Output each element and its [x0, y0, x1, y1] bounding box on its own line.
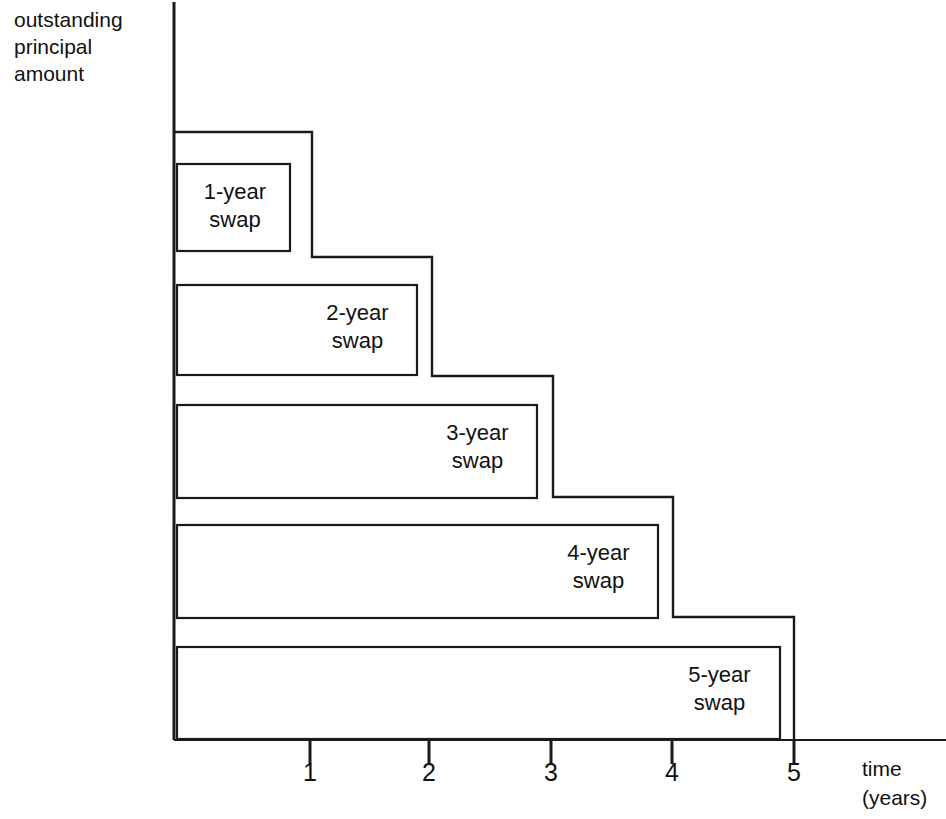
x-tick-label-4: 4: [652, 758, 692, 787]
swap-label-3-year: 3-year swap: [430, 419, 525, 475]
x-tick-label-5: 5: [774, 758, 814, 787]
staircase-diagram: outstanding principal amount time (years…: [0, 0, 946, 819]
x-tick-label-1: 1: [290, 758, 330, 787]
diagram-canvas: [0, 0, 946, 819]
swap-label-5-year: 5-year swap: [672, 661, 767, 717]
swap-label-1-year: 1-year swap: [190, 178, 280, 234]
y-axis-title: outstanding principal amount: [14, 6, 123, 87]
swap-label-2-year: 2-year swap: [310, 299, 405, 355]
x-tick-label-3: 3: [531, 758, 571, 787]
x-tick-label-2: 2: [409, 758, 449, 787]
x-axis-title: time (years): [862, 754, 927, 812]
swap-label-4-year: 4-year swap: [551, 539, 646, 595]
